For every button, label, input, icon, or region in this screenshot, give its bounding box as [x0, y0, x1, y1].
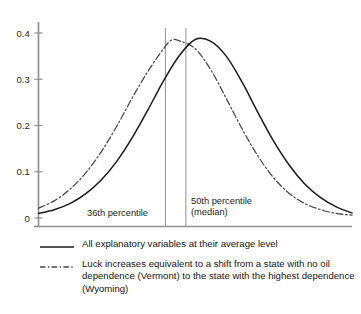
- legend-item-dashdot: Luck increases equivalent to a shift fro…: [0, 258, 361, 296]
- legend-item-solid: All explanatory variables at their avera…: [0, 238, 361, 251]
- chart-legend: All explanatory variables at their avera…: [0, 238, 361, 302]
- y-tick-label-0.2: 0.2: [2, 120, 30, 131]
- reference-lines: [165, 28, 185, 226]
- legend-swatch-solid: [40, 238, 74, 250]
- legend-label-solid: All explanatory variables at their avera…: [82, 238, 278, 251]
- y-tick-label-0.1: 0.1: [2, 166, 30, 177]
- annotation-50th-percentile: 50th percentile: [191, 196, 252, 207]
- curve-average-level: [39, 38, 353, 213]
- y-tick-label-0.3: 0.3: [2, 74, 30, 85]
- legend-label-dash-dot: Luck increases equivalent to a shift fro…: [82, 258, 360, 296]
- y-tick-label-0.4: 0.4: [2, 28, 30, 39]
- y-tick-label-0: 0: [2, 213, 30, 224]
- annotation-median: (median): [191, 207, 228, 218]
- chart-figure: 0.4 0.3 0.2 0.1 0 36th percentile 50th p…: [0, 0, 361, 314]
- legend-swatch-dash-dot: [40, 258, 74, 270]
- curve-luck-increase: [39, 39, 353, 215]
- annotation-36th-percentile: 36th percentile: [87, 208, 148, 219]
